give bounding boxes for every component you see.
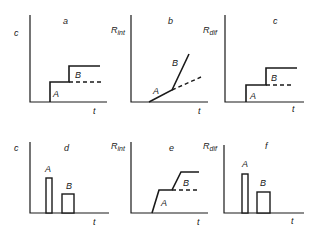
axes [30, 15, 107, 102]
x-axis-label: t [93, 217, 96, 227]
peak-label-a: A [249, 91, 256, 101]
panel-a: c a A B t [14, 15, 107, 116]
peak-label-b: B [75, 70, 81, 80]
x-axis-label: t [93, 106, 96, 116]
panel-label: b [168, 16, 173, 26]
y-axis-label: c [14, 28, 19, 38]
peak-label-a: A [44, 164, 51, 174]
peak-label-b: B [183, 178, 189, 188]
panel-label: e [169, 143, 174, 153]
pulse-a [46, 178, 52, 213]
panel-d: c d A B t [14, 142, 109, 227]
peak-label-b: B [172, 58, 178, 68]
y-axis-label: Rdif [203, 25, 218, 36]
x-axis-label: t [198, 106, 201, 116]
sloped-step-curve [152, 172, 199, 213]
peak-label-a: A [160, 198, 167, 208]
y-axis-label: c [14, 143, 19, 153]
y-axis-label: Rdif [203, 141, 218, 152]
peak-label-b: B [260, 178, 266, 188]
peak-label-a: A [241, 159, 248, 169]
x-axis-label: t [291, 216, 294, 226]
panel-c: Rdif c A B t [203, 15, 304, 114]
axes [225, 15, 304, 102]
peak-label-a: A [52, 89, 59, 99]
panel-label: c [273, 16, 278, 26]
y-axis-label: Rint [111, 25, 126, 36]
peak-label-b: B [66, 181, 72, 191]
pulse-a [242, 174, 248, 213]
panel-label: d [64, 143, 70, 153]
panel-f: Rdif f A B t [203, 141, 304, 226]
panel-label: a [63, 16, 68, 26]
peak-label-a: A [152, 86, 159, 96]
panel-b: Rint b A B t [111, 15, 208, 116]
pulse-b [257, 192, 270, 213]
panel-label: f [265, 141, 269, 151]
panel-e: Rint e A B t [111, 141, 208, 227]
figure: c a A B t Rint b A B t Rdif c A B t c d … [0, 0, 321, 233]
x-axis-label: t [197, 217, 200, 227]
x-axis-label: t [292, 104, 295, 114]
peak-label-b: B [271, 73, 277, 83]
pulse-b [62, 194, 74, 213]
y-axis-label: Rint [111, 141, 126, 152]
axes [131, 15, 208, 102]
